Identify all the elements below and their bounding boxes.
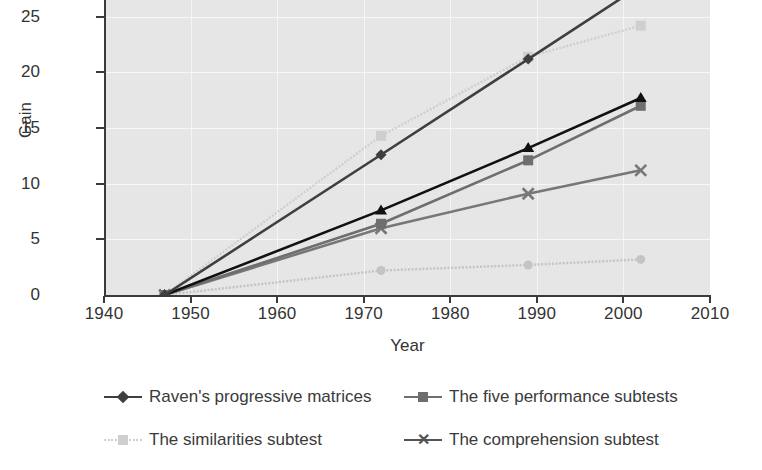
y-tick-15 xyxy=(96,127,104,129)
x-tick-2000 xyxy=(622,296,624,303)
x-tick-1940 xyxy=(103,296,105,303)
legend-item-0[interactable]: Raven's progressive matrices xyxy=(104,388,404,405)
x-tick-label-1980: 1980 xyxy=(431,304,470,324)
series-lines xyxy=(104,0,710,295)
y-tick-label-25: 25 xyxy=(21,7,40,27)
legend-marker-x-icon: ✕ xyxy=(404,433,442,447)
x-tick-2010 xyxy=(709,296,711,303)
y-tick-5 xyxy=(96,238,104,240)
x-tick-1950 xyxy=(190,296,192,303)
x-tick-1990 xyxy=(536,296,538,303)
y-tick-label-5: 5 xyxy=(31,229,40,249)
y-tick-20 xyxy=(96,71,104,73)
legend-label-2: The similarities subtest xyxy=(149,431,322,448)
legend-label-3: The comprehension subtest xyxy=(449,431,659,448)
y-tick-25 xyxy=(96,16,104,18)
chart-legend: Raven's progressive matricesThe five per… xyxy=(104,388,724,448)
x-tick-label-1940: 1940 xyxy=(85,304,124,324)
x-axis-title: Year xyxy=(104,336,711,356)
x-tick-1970 xyxy=(363,296,365,303)
plot-area xyxy=(104,0,710,295)
y-tick-label-10: 10 xyxy=(21,174,40,194)
y-axis-line xyxy=(104,0,106,296)
legend-marker-diamond-icon xyxy=(104,390,142,404)
y-tick-label-0: 0 xyxy=(31,285,40,305)
x-tick-label-1970: 1970 xyxy=(344,304,383,324)
legend-item-2[interactable]: The similarities subtest xyxy=(104,431,404,448)
series-0 xyxy=(159,0,646,295)
x-tick-label-1950: 1950 xyxy=(171,304,210,324)
series-2 xyxy=(160,21,646,295)
chart-root: 19401950196019701980199020002010 0510152… xyxy=(0,0,762,470)
legend-marker-square-icon xyxy=(104,433,142,447)
x-tick-label-2000: 2000 xyxy=(604,304,643,324)
legend-item-1[interactable]: The five performance subtests xyxy=(404,388,724,405)
x-axis-line xyxy=(104,295,711,297)
legend-label-0: Raven's progressive matrices xyxy=(149,388,371,405)
x-tick-1980 xyxy=(449,296,451,303)
x-tick-label-2010: 2010 xyxy=(691,304,730,324)
y-tick-10 xyxy=(96,183,104,185)
legend-marker-square-icon xyxy=(404,390,442,404)
x-tick-label-1990: 1990 xyxy=(518,304,557,324)
series-3 xyxy=(159,165,646,295)
x-tick-1960 xyxy=(276,296,278,303)
series-1 xyxy=(160,101,646,295)
legend-label-1: The five performance subtests xyxy=(449,388,678,405)
x-tick-label-1960: 1960 xyxy=(258,304,297,324)
legend-item-3[interactable]: ✕The comprehension subtest xyxy=(404,431,724,448)
series-4 xyxy=(159,92,647,295)
y-axis-title: Gain xyxy=(16,70,36,170)
